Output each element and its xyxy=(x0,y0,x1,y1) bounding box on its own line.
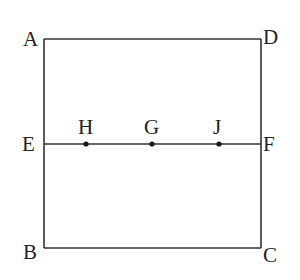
label-E: E xyxy=(22,132,35,156)
label-H: H xyxy=(78,115,93,139)
label-F: F xyxy=(263,132,275,156)
label-D: D xyxy=(263,25,278,49)
point-J xyxy=(216,141,221,146)
label-J: J xyxy=(213,115,221,139)
geometry-diagram: A D E F B C H G J xyxy=(0,0,300,280)
label-C: C xyxy=(263,243,277,267)
label-A: A xyxy=(23,27,39,51)
label-G: G xyxy=(144,115,159,139)
point-H xyxy=(83,141,88,146)
label-B: B xyxy=(23,240,37,264)
point-G xyxy=(149,141,154,146)
